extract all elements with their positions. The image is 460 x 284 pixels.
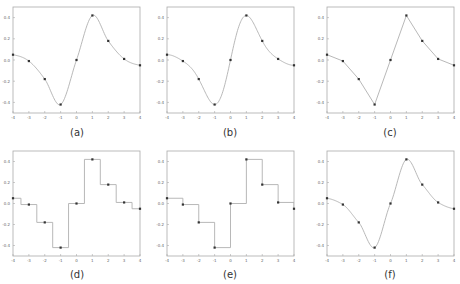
sample-point-marker <box>453 208 455 210</box>
x-tick-label: -4 <box>165 258 169 263</box>
sample-point-marker <box>60 247 62 249</box>
sample-point-marker <box>229 59 231 61</box>
sample-point-marker <box>91 158 93 160</box>
sample-point-marker <box>214 103 216 105</box>
x-tick-label: 2 <box>421 115 424 120</box>
sample-point-marker <box>12 54 14 56</box>
y-tick-label: -0.2 <box>316 79 324 84</box>
x-tick-label: 3 <box>437 115 440 120</box>
y-tick-label: 0.0 <box>4 201 11 206</box>
sample-point-marker <box>421 40 423 42</box>
x-tick-label: -2 <box>43 115 47 120</box>
sample-point-marker <box>374 247 376 249</box>
y-tick-label: -0.4 <box>2 243 10 248</box>
x-tick-label: 1 <box>91 258 94 263</box>
sample-point-marker <box>123 58 125 60</box>
plot-area: -4-3-2-1012340.40.20.0-0.2-0.4 <box>13 7 140 113</box>
sample-point-marker <box>358 221 360 223</box>
y-tick-label: 0.2 <box>158 180 165 185</box>
y-tick-label: 0.2 <box>318 180 325 185</box>
x-tick-label: -1 <box>59 115 63 120</box>
x-tick-label: 4 <box>293 258 296 263</box>
x-tick-label: -4 <box>165 115 169 120</box>
x-tick-label: -1 <box>373 115 377 120</box>
y-tick-label: -0.2 <box>2 79 10 84</box>
y-tick-label: -0.2 <box>316 222 324 227</box>
sample-point-marker <box>107 40 109 42</box>
x-tick-label: 2 <box>261 115 264 120</box>
y-tick-label: 0.4 <box>158 159 165 164</box>
sample-point-marker <box>198 221 200 223</box>
x-tick-label: -1 <box>59 258 63 263</box>
x-tick-label: 4 <box>139 115 142 120</box>
x-tick-label: 4 <box>453 115 456 120</box>
y-tick-label: 0.4 <box>158 15 165 20</box>
sample-point-marker <box>326 54 328 56</box>
sample-point-marker <box>261 184 263 186</box>
y-tick-label: -0.4 <box>156 100 164 105</box>
x-tick-label: 2 <box>261 258 264 263</box>
plot-area: -4-3-2-1012340.40.20.0-0.2-0.4 <box>327 7 454 113</box>
y-tick-label: -0.4 <box>316 243 324 248</box>
chart-panel: -4-3-2-1012340.40.20.0-0.2-0.4 <box>13 151 140 256</box>
sample-point-marker <box>261 40 263 42</box>
x-tick-label: 1 <box>91 115 94 120</box>
x-tick-label: -1 <box>213 258 217 263</box>
x-tick-label: 2 <box>107 115 110 120</box>
panel-caption: (c) <box>370 127 410 138</box>
sample-point-marker <box>182 60 184 62</box>
x-tick-label: -2 <box>357 258 361 263</box>
x-tick-label: -4 <box>325 258 329 263</box>
x-tick-label: -4 <box>325 115 329 120</box>
y-tick-label: 0.0 <box>158 58 165 63</box>
plot-area: -4-3-2-1012340.40.20.0-0.2-0.4 <box>327 151 454 256</box>
x-tick-label: -1 <box>213 115 217 120</box>
x-tick-label: 2 <box>421 258 424 263</box>
sample-point-marker <box>166 54 168 56</box>
y-tick-label: -0.4 <box>316 100 324 105</box>
chart-panel: -4-3-2-1012340.40.20.0-0.2-0.4 <box>167 151 294 256</box>
y-tick-label: 0.2 <box>4 36 11 41</box>
sample-point-marker <box>91 14 93 16</box>
x-tick-label: 1 <box>405 115 408 120</box>
y-tick-label: 0.2 <box>4 180 11 185</box>
panel-caption: (e) <box>210 269 250 280</box>
x-tick-label: 2 <box>107 258 110 263</box>
sample-point-marker <box>44 78 46 80</box>
sample-point-marker <box>437 201 439 203</box>
y-tick-label: 0.0 <box>318 58 325 63</box>
x-tick-label: -2 <box>357 115 361 120</box>
sample-point-marker <box>405 158 407 160</box>
plot-area: -4-3-2-1012340.40.20.0-0.2-0.4 <box>13 151 140 256</box>
x-tick-label: 1 <box>245 115 248 120</box>
sample-point-marker <box>421 184 423 186</box>
sample-point-marker <box>60 103 62 105</box>
x-tick-label: 0 <box>389 115 392 120</box>
y-tick-label: 0.0 <box>4 58 11 63</box>
y-tick-label: 0.2 <box>318 36 325 41</box>
sample-point-marker <box>277 201 279 203</box>
sample-point-marker <box>28 203 30 205</box>
sample-point-marker <box>139 64 141 66</box>
sample-point-marker <box>123 201 125 203</box>
x-tick-label: 3 <box>123 258 126 263</box>
sample-point-marker <box>358 78 360 80</box>
panel-caption: (f) <box>370 269 410 280</box>
sample-point-marker <box>28 60 30 62</box>
x-tick-label: 3 <box>277 115 280 120</box>
x-tick-label: 0 <box>75 258 78 263</box>
x-tick-label: -3 <box>181 258 185 263</box>
x-tick-label: 0 <box>229 115 232 120</box>
sample-point-marker <box>405 14 407 16</box>
sample-point-marker <box>214 247 216 249</box>
y-tick-label: 0.4 <box>4 15 11 20</box>
x-tick-label: -3 <box>27 115 31 120</box>
sample-point-marker <box>437 58 439 60</box>
sample-point-marker <box>293 64 295 66</box>
sample-point-marker <box>245 158 247 160</box>
sample-point-marker <box>389 59 391 61</box>
sample-point-marker <box>107 184 109 186</box>
sample-point-marker <box>75 202 77 204</box>
x-tick-label: -4 <box>11 258 15 263</box>
y-tick-label: -0.4 <box>156 243 164 248</box>
